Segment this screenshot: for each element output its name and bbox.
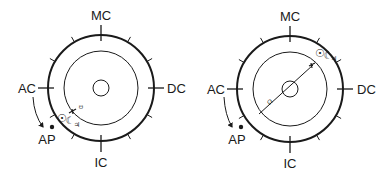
cardinal-ticks [227, 26, 353, 153]
label-dc: DC [167, 81, 186, 96]
jupiter-symbol: ♃ [331, 55, 337, 63]
label-dc: DC [357, 82, 376, 97]
label-ac: AC [18, 81, 36, 96]
jupiter-symbol: ♃ [74, 121, 80, 129]
label-ac: AC [207, 82, 225, 97]
label-ic: IC [284, 156, 297, 171]
node-marker [69, 109, 76, 114]
ap-dot [239, 125, 243, 129]
label-ic: IC [95, 155, 108, 170]
inner-ring [253, 52, 327, 126]
node-axis-line [259, 65, 313, 114]
chart-1: MC IC AC DC AP ☉ ☾ ♃ ☋ [18, 8, 186, 170]
label-ap: AP [228, 132, 245, 147]
chart-2: MC IC AC DC AP ☊ ☉ ☾ ♃ [207, 9, 376, 171]
cardinal-ticks [38, 25, 164, 152]
ap-dot [50, 125, 54, 129]
direction-arrow [33, 97, 43, 127]
node-symbol: ☊ [265, 97, 274, 106]
direction-arrow [224, 97, 232, 127]
label-mc: MC [280, 9, 300, 24]
node-symbol: ☋ [79, 104, 84, 110]
core-circle [282, 81, 298, 97]
label-ap: AP [38, 132, 55, 147]
astrology-charts-diagram: MC IC AC DC AP ☉ ☾ ♃ ☋ [0, 0, 390, 178]
label-mc: MC [91, 8, 111, 23]
inner-ring [64, 51, 138, 125]
core-circle [93, 80, 109, 96]
